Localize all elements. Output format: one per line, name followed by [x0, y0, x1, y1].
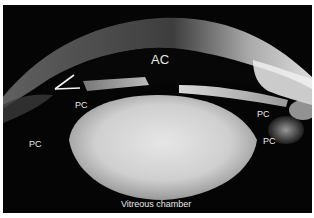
label-vitreous-chamber: Vitreous chamber [121, 200, 191, 209]
label-posterior-chamber: PC [263, 137, 276, 146]
label-posterior-chamber: PC [75, 101, 88, 110]
label-posterior-chamber: PC [29, 140, 42, 149]
label-anterior-chamber: AC [151, 53, 169, 66]
lens [69, 95, 257, 200]
ultrasound-image: AC PC PC PC PC Vitreous chamber [3, 5, 312, 213]
label-posterior-chamber: PC [257, 110, 270, 119]
